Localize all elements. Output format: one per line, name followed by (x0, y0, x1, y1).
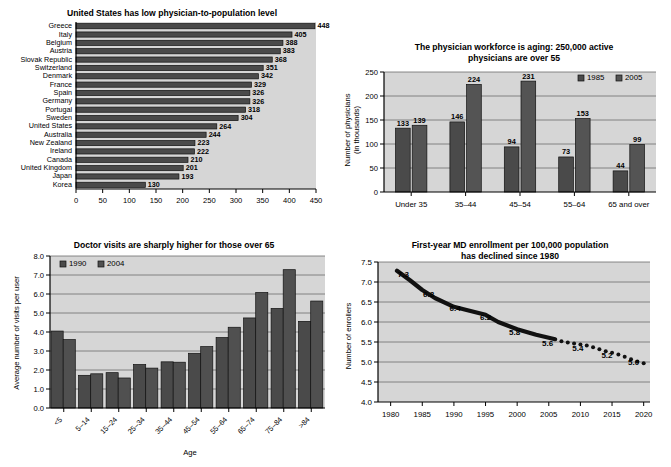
x-tick-label: 15–24 (98, 415, 119, 436)
data-point-label: 6.4 (450, 304, 462, 313)
workforce-aging-svg: 050100150200250133139Under 3514622435–44… (336, 38, 671, 233)
bar (504, 147, 519, 192)
bar (467, 84, 482, 192)
x-tick-label: 200 (176, 196, 189, 205)
bar (283, 270, 295, 408)
bar (613, 171, 628, 192)
bar (412, 125, 427, 192)
bar (396, 128, 411, 192)
bar (630, 144, 645, 192)
bar (76, 99, 250, 104)
bar (76, 57, 272, 62)
y-tick-label: 6.0 (33, 290, 44, 299)
x-tick-label: 100 (123, 196, 136, 205)
legend-swatch (98, 261, 104, 267)
bar-value-label: 44 (616, 161, 625, 170)
data-point-label: 6.8 (423, 290, 435, 299)
y-tick-label: 7.0 (33, 271, 44, 280)
x-tick-label: 2000 (508, 410, 526, 419)
y-tick-label: 5.5 (361, 338, 373, 347)
bar (161, 362, 173, 408)
enrollment-projection-point (642, 361, 646, 365)
x-tick-label: 2005 (540, 410, 558, 419)
legend-swatch (578, 75, 584, 81)
y-tick-label: 7.0 (361, 278, 373, 287)
chart-physician-population: United States has low physician-to-popul… (0, 0, 336, 232)
enrollment-projection-point (585, 344, 589, 348)
x-tick-label: 35–44 (153, 415, 174, 436)
bar-value-label: 99 (633, 135, 641, 144)
data-point-label: 5.0 (628, 358, 640, 367)
x-tick-label: 2020 (635, 410, 653, 419)
bar-value-label: 139 (413, 116, 425, 125)
bar (91, 374, 103, 408)
legend-swatch (60, 261, 66, 267)
x-tick-label: 0 (74, 196, 78, 205)
bar (244, 318, 256, 408)
bar-value-label: 73 (562, 147, 570, 156)
x-tick-label: 55–64 (564, 200, 586, 209)
bar (76, 124, 217, 129)
chart-md-enrollment: First-year MD enrollment per 100,000 pop… (336, 236, 671, 467)
bar (76, 115, 238, 120)
y-tick-label: 3.0 (33, 347, 44, 356)
bar (106, 373, 118, 408)
bar (76, 132, 206, 137)
data-point-label: 5.2 (601, 351, 613, 360)
bar (76, 157, 188, 162)
y-tick-label: 4.5 (361, 378, 373, 387)
data-point-label: 5.6 (542, 339, 554, 348)
data-point-label: 7.3 (398, 270, 410, 279)
x-tick-label: 65 and over (608, 200, 650, 209)
bar (216, 338, 228, 408)
legend-label: 2005 (625, 73, 643, 82)
chart-workforce-aging: The physician workforce is aging: 250,00… (336, 38, 671, 233)
x-tick-label: 1985 (414, 410, 432, 419)
y-tick-label: 150 (365, 116, 378, 125)
y-tick-label: 250 (365, 68, 378, 77)
x-tick-label: >84 (296, 415, 311, 430)
bar-value-label: 133 (397, 119, 409, 128)
x-tick-label: 1995 (477, 410, 495, 419)
x-tick-label: <5 (52, 415, 64, 427)
enrollment-projection-point (623, 355, 627, 359)
x-tick-label: 250 (203, 196, 216, 205)
y-tick-label: 6.0 (361, 318, 373, 327)
data-point-label: 6.2 (480, 313, 492, 322)
x-tick-label: 45–54 (509, 200, 531, 209)
y-tick-label: 50 (370, 164, 378, 173)
enrollment-projection-point (616, 352, 620, 356)
y-tick-label: 6.5 (361, 298, 373, 307)
bar (450, 122, 465, 192)
bar (559, 157, 574, 192)
x-tick-label: 300 (230, 196, 243, 205)
legend-label: 2004 (107, 259, 125, 268)
y-tick-label: 0 (374, 188, 378, 197)
enrollment-projection-point (566, 340, 570, 344)
x-tick-label: 35–44 (455, 200, 477, 209)
category-label: Korea (53, 180, 72, 189)
x-tick-label: 450 (310, 196, 323, 205)
y-tick-label: 100 (365, 140, 378, 149)
bar (201, 347, 213, 408)
x-tick-label: 400 (283, 196, 296, 205)
y-tick-label: 8.0 (33, 252, 44, 261)
bar (146, 368, 158, 408)
bar (76, 82, 251, 87)
bar (228, 327, 240, 408)
x-tick-label: 1980 (382, 410, 400, 419)
data-point-label: 5.8 (509, 328, 521, 337)
bar-value-label: 153 (577, 109, 589, 118)
bar (76, 40, 283, 45)
x-tick-label: 5–14 (74, 415, 92, 433)
x-tick-label: 75–84 (263, 415, 284, 436)
bar (76, 49, 280, 54)
bar (189, 353, 201, 408)
bar (521, 81, 536, 192)
x-tick-label: Under 35 (395, 200, 428, 209)
legend-swatch (616, 75, 622, 81)
bar-value-label: 224 (468, 75, 481, 84)
bar-value-label: 94 (508, 137, 517, 146)
bar-value-label: 244 (209, 130, 221, 139)
bar-value-label: 130 (148, 180, 160, 189)
